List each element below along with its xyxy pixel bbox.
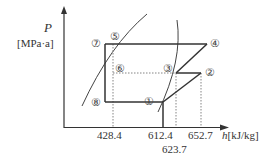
tick-623-7: 623.7 xyxy=(162,143,187,155)
compression-line-3-4 xyxy=(176,44,207,73)
state-6-marker: ⑥ xyxy=(115,62,125,75)
tick-428-4: 428.4 xyxy=(97,129,122,141)
tick-652-7: 652.7 xyxy=(188,129,213,141)
x-axis-unit: [kJ/kg] xyxy=(228,129,259,141)
state-3-marker: ③ xyxy=(163,62,173,75)
state-7-marker: ⑦ xyxy=(91,37,101,50)
saturated-liquid-line xyxy=(82,14,147,106)
y-axis-symbol: P xyxy=(44,20,52,36)
y-axis-unit: [MPa·a] xyxy=(17,37,54,49)
y-axis-arrow-icon xyxy=(61,6,67,14)
x-axis-label: h[kJ/kg] xyxy=(222,129,259,141)
state-1-marker: ① xyxy=(144,95,154,108)
tick-612-4: 612.4 xyxy=(148,129,173,141)
state-2-marker: ② xyxy=(205,66,215,79)
state-4-marker: ④ xyxy=(210,37,220,50)
axes xyxy=(61,6,229,131)
reference-lines xyxy=(113,44,201,127)
cycle xyxy=(105,44,207,127)
state-5-marker: ⑤ xyxy=(110,30,120,43)
state-8-marker: ⑧ xyxy=(91,96,101,109)
